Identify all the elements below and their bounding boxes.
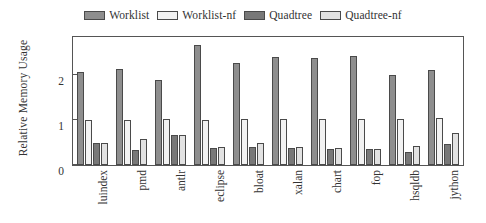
bar-fop-quadtree xyxy=(366,149,373,165)
legend-entry-worklist-nf: Worklist-nf xyxy=(157,9,236,21)
x-axis-tick xyxy=(93,161,94,165)
bar-hsqldb-quadtree-nf xyxy=(413,146,420,165)
bar-antlr-worklist xyxy=(155,80,162,165)
bar-pmd-quadtree xyxy=(132,150,139,165)
chart-legend: Worklist Worklist-nf Quadtree Quadtree-n… xyxy=(0,6,486,24)
bar-group-antlr xyxy=(151,37,190,165)
legend-swatch-quadtree-icon xyxy=(244,11,265,20)
bar-chart-worklist xyxy=(311,58,318,165)
legend-label-quadtree: Quadtree xyxy=(269,9,312,21)
bar-eclipse-worklist-nf xyxy=(202,120,209,165)
bar-xalan-worklist-nf xyxy=(280,119,287,165)
x-axis-tick xyxy=(444,161,445,165)
bar-group-jython xyxy=(424,37,463,165)
bar-pmd-worklist xyxy=(116,69,123,165)
bar-fop-worklist xyxy=(350,56,357,165)
bar-luindex-quadtree-nf xyxy=(101,143,108,165)
bar-xalan-worklist xyxy=(272,57,279,165)
bar-antlr-quadtree xyxy=(171,135,178,165)
legend-entry-quadtree: Quadtree xyxy=(244,9,312,21)
bar-luindex-worklist-nf xyxy=(85,120,92,165)
bar-pmd-worklist-nf xyxy=(124,120,131,165)
bar-pmd-quadtree-nf xyxy=(140,139,147,165)
x-axis-tick xyxy=(405,161,406,165)
bar-group-pmd xyxy=(112,37,151,165)
bar-chart-quadtree-nf xyxy=(335,148,342,165)
bar-bloat-quadtree xyxy=(249,147,256,165)
bar-hsqldb-worklist-nf xyxy=(397,119,404,165)
bar-fop-quadtree-nf xyxy=(374,149,381,165)
x-axis-label-pmd: pmd xyxy=(136,170,148,190)
bar-hsqldb-worklist xyxy=(389,75,396,165)
bar-xalan-quadtree xyxy=(288,148,295,165)
x-axis-label-xalan: xalan xyxy=(292,170,304,195)
bar-eclipse-worklist xyxy=(194,45,201,165)
bar-group-luindex xyxy=(73,37,112,165)
plot-area: 012 xyxy=(72,36,464,166)
x-axis-label-hsqldb: hsqldb xyxy=(409,170,421,201)
bar-jython-worklist xyxy=(428,70,435,165)
bar-xalan-quadtree-nf xyxy=(296,147,303,165)
bar-jython-quadtree xyxy=(444,144,451,165)
legend-label-worklist-nf: Worklist-nf xyxy=(182,9,236,21)
bar-jython-worklist-nf xyxy=(436,118,443,165)
bar-eclipse-quadtree-nf xyxy=(218,147,225,165)
legend-label-quadtree-nf: Quadtree-nf xyxy=(345,9,402,21)
y-axis-title-container: Relative Memory Usage xyxy=(14,28,32,168)
bar-bloat-worklist-nf xyxy=(241,119,248,165)
legend-entry-worklist: Worklist xyxy=(84,9,149,21)
x-axis-tick xyxy=(288,161,289,165)
x-axis-label-antlr: antlr xyxy=(175,170,187,191)
bar-chart-worklist-nf xyxy=(319,119,326,165)
legend-swatch-worklist-nf-icon xyxy=(157,11,178,20)
x-axis-label-fop: fop xyxy=(370,170,382,185)
x-axis-label-chart: chart xyxy=(331,170,343,193)
x-axis-tick xyxy=(249,161,250,165)
x-axis-label-bloat: bloat xyxy=(253,170,265,193)
x-axis-label-jython: jython xyxy=(448,170,460,199)
bar-group-hsqldb xyxy=(385,37,424,165)
x-axis-label-eclipse: eclipse xyxy=(214,170,226,202)
bar-fop-worklist-nf xyxy=(358,119,365,165)
bar-chart-quadtree xyxy=(327,149,334,165)
memory-usage-bar-chart: Worklist Worklist-nf Quadtree Quadtree-n… xyxy=(0,0,486,223)
legend-swatch-quadtree-nf-icon xyxy=(320,11,341,20)
bar-eclipse-quadtree xyxy=(210,148,217,165)
x-axis-tick xyxy=(327,161,328,165)
bar-bloat-worklist xyxy=(233,63,240,165)
legend-swatch-worklist-icon xyxy=(84,11,105,20)
y-axis-title: Relative Memory Usage xyxy=(17,40,29,157)
bar-antlr-worklist-nf xyxy=(163,119,170,165)
bar-jython-quadtree-nf xyxy=(452,133,459,165)
legend-label-worklist: Worklist xyxy=(109,9,149,21)
x-axis-tick xyxy=(171,161,172,165)
legend-entry-quadtree-nf: Quadtree-nf xyxy=(320,9,402,21)
x-axis-tick xyxy=(366,161,367,165)
bar-luindex-worklist xyxy=(77,72,84,165)
bar-hsqldb-quadtree xyxy=(405,152,412,165)
bar-bloat-quadtree-nf xyxy=(257,143,264,165)
bar-luindex-quadtree xyxy=(93,143,100,165)
x-axis-tick xyxy=(132,161,133,165)
bar-group-chart xyxy=(307,37,346,165)
x-axis-label-luindex: luindex xyxy=(97,170,109,205)
x-axis-tick xyxy=(210,161,211,165)
bar-group-eclipse xyxy=(190,37,229,165)
bar-antlr-quadtree-nf xyxy=(179,135,186,165)
bar-group-bloat xyxy=(229,37,268,165)
bar-group-fop xyxy=(346,37,385,165)
bar-group-xalan xyxy=(268,37,307,165)
